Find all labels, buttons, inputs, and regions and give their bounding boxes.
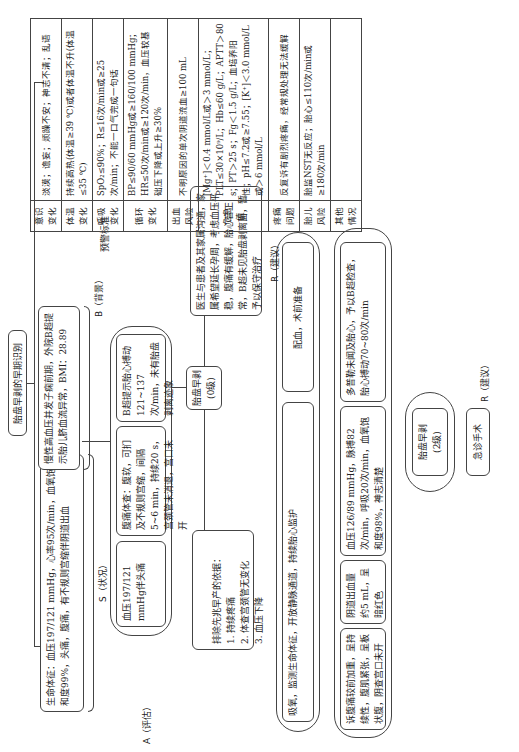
- r-monitor-box: 吸氧，监测生命体征，开放静脉通道，持续胎心监护: [282, 402, 314, 722]
- criteria-key: 呼吸变化: [93, 201, 124, 232]
- e-vitals-box: 血压126/89 mmHg，脉搏82次/min，呼吸20次/min，血氧饱和度9…: [340, 406, 386, 556]
- criteria-value: 不明原因的单次阴道流血≥100 mL: [168, 19, 199, 201]
- criteria-value: SpO₂≤90%；R≤16次/min或≥25次/min；不能一口气完成一句话: [93, 19, 124, 201]
- criteria-key: 出血风险: [168, 201, 199, 232]
- table-row: 呼吸变化SpO₂≤90%；R≤16次/min或≥25次/min；不能一口气完成一…: [93, 19, 124, 232]
- emergency-surgery-text: 急诊手术: [471, 424, 485, 460]
- e-vitals-text: 血压126/89 mmHg，脉搏82次/min，呼吸20次/min，血氧饱和度9…: [346, 417, 384, 550]
- criteria-rows: 意识变化淡漠；谵妄；烦躁不安；神志不清；乱语体温变化持续高热(体温≥39 ℃)或…: [31, 19, 362, 232]
- background-label: B（背景）: [92, 275, 105, 317]
- background-brace: [84, 306, 90, 470]
- connector: [82, 441, 110, 442]
- table-row: 危急值[Mg⁺]＜0.4 mmol/L或＞3 mmol/L；PLT≤30×10⁹…: [199, 19, 269, 232]
- situation-brace: [88, 454, 94, 712]
- table-row: 体温变化持续高热(体温≥39 ℃)或者体温不升(体温≤35 ℃): [62, 19, 93, 232]
- criteria-key: 循环变化: [124, 201, 168, 232]
- criteria-key: 其他情况: [331, 201, 362, 232]
- criteria-value: 淡漠；谵妄；烦躁不安；神志不清；乱语: [31, 19, 62, 201]
- a-bp-text: 血压197/121 mmHg伴头痛: [122, 563, 146, 621]
- connector: [172, 387, 186, 388]
- criteria-key: 体温变化: [62, 201, 93, 232]
- e-bleeding-box: 阴道出血量约5 mL，呈暗红色: [340, 560, 386, 624]
- grade0-node: 胎盘早剥 (0级): [186, 366, 222, 410]
- warning-criteria-table: 意识变化淡漠；谵妄；烦躁不安；神志不清；乱语体温变化持续高热(体温≥39 ℃)或…: [30, 18, 362, 232]
- table-row: 疼痛问题反复诉有剧烈疼痛，经常规处理无法缓解: [269, 19, 300, 232]
- assessment-label: A（评估）: [140, 702, 153, 744]
- r-prepare-box: 配血，术前准备: [282, 242, 314, 392]
- table-row: 意识变化淡漠；谵妄；烦躁不安；神志不清；乱语: [31, 19, 62, 232]
- criteria-value: 持续高热(体温≥39 ℃)或者体温不升(体温≤35 ℃): [62, 19, 93, 201]
- r-monitor-text: 吸氧，监测生命体征，开放静脉通道，持续胎心监护: [288, 509, 298, 716]
- e-doppler-text: 多普勒未闻及胎心，予以B超检查，胎心搏动70~80次/min: [346, 254, 370, 396]
- e-bleeding-text: 阴道出血量约5 mL，呈暗红色: [346, 568, 384, 618]
- connector: [204, 316, 205, 366]
- title-text: 胎盘早剥的早期识别: [11, 343, 25, 424]
- background-box: 慢性高血压并发子痫前期，外院B超提示胎儿脐血流异常，BMI：28.89: [38, 306, 80, 470]
- exclude-preterm-text: 排除先兆早产的依据： 1. 持续疼痛 2. 体查宫颈管无变化 3. 血压下降: [212, 554, 264, 644]
- a-ultrasound-box: B超提示胎心搏动121~137次/min，未有胎盘剥离迹象: [116, 334, 166, 422]
- grade2-text: 胎盘早剥 (2级): [416, 424, 444, 460]
- criteria-value: 胎监NST无反应；胎心≤110次/min或≥180次/min: [300, 19, 331, 201]
- criteria-value: [331, 19, 362, 201]
- recommendation-label-2: R（建议）: [478, 360, 491, 402]
- a-abdomen-text: 腹痛体查：腹软，可扪及不规则宫缩，间隔5~6 min，持续20 s，宫颈管未消退…: [122, 436, 188, 530]
- table-row: 出血风险不明原因的单次阴道流血≥100 mL: [168, 19, 199, 232]
- e-pain-text: 诉腹痛较前加重，呈持续性，腹肌紧张，呈板状腹，阴查宫口未开: [346, 634, 384, 724]
- a-abdomen-box: 腹痛体查：腹软，可扪及不规则宫缩，间隔5~6 min，持续20 s，宫颈管未消退…: [116, 426, 166, 536]
- grade0-text: 胎盘早剥 (0级): [190, 370, 218, 406]
- table-row: 胎儿风险胎监NST无反应；胎心≤110次/min或≥180次/min: [300, 19, 331, 232]
- criteria-key: 意识变化: [31, 201, 62, 232]
- exclude-preterm-box: 排除先兆早产的依据： 1. 持续疼痛 2. 体查宫颈管无变化 3. 血压下降: [192, 530, 254, 650]
- table-row: 其他情况: [331, 19, 362, 232]
- table-row: 循环变化BP≤90/60 mmHg或≥160/100 mmHg；HR≤50次/m…: [124, 19, 168, 232]
- connector: [204, 410, 205, 530]
- e-pain-box: 诉腹痛较前加重，呈持续性，腹肌紧张，呈板状腹，阴查宫口未开: [340, 628, 386, 730]
- r-prepare-text: 配血，术前准备: [291, 286, 305, 349]
- connector: [27, 383, 34, 384]
- background-text: 慢性高血压并发子痫前期，外院B超提示胎儿脐血流异常，BMI：28.89: [44, 313, 68, 464]
- criteria-key: 胎儿风险: [300, 201, 331, 232]
- situation-box: 生命体征：血压197/121 mmHg，心率95次/min，血氧饱和度99%，头…: [40, 454, 84, 712]
- title-box: 胎盘早剥的早期识别: [8, 330, 27, 436]
- criteria-value: 反复诉有剧烈疼痛，经常规处理无法缓解: [269, 19, 300, 201]
- e-doppler-box: 多普勒未闻及胎心，予以B超检查，胎心搏动70~80次/min: [340, 242, 386, 402]
- criteria-key: 危急值: [199, 201, 269, 232]
- grade2-node: 胎盘早剥 (2级): [412, 408, 448, 476]
- a-bp-box: 血压197/121 mmHg伴头痛: [116, 541, 166, 627]
- situation-label: S（状况）: [96, 560, 109, 602]
- criteria-key: 疼痛问题: [269, 201, 300, 232]
- criteria-value: [Mg⁺]＜0.4 mmol/L或＞3 mmol/L；PLT≤30×10⁹/L；…: [199, 19, 269, 201]
- criteria-value: BP≤90/60 mmHg或≥160/100 mmHg；HR≤50次/min或≥…: [124, 19, 168, 201]
- emergency-surgery-box: 急诊手术: [466, 408, 490, 476]
- recommendation-label-1: R（建议）: [268, 240, 281, 282]
- situation-text: 生命体征：血压197/121 mmHg，心率95次/min，血氧饱和度99%，头…: [46, 468, 70, 706]
- flowchart-canvas: 胎盘早剥的早期识别 生命体征：血压197/121 mmHg，心率95次/min，…: [0, 0, 519, 752]
